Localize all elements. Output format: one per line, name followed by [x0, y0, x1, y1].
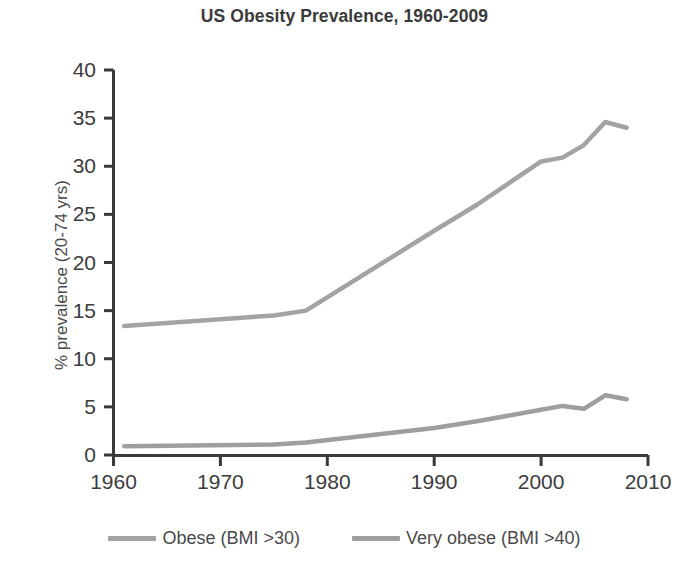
x-axis-tick-label: 1990 — [394, 471, 474, 492]
y-axis-tick-label: 25 — [42, 203, 96, 224]
y-axis-tick-label: 10 — [42, 348, 96, 369]
y-axis-tick-label: 5 — [42, 396, 96, 417]
y-axis-tick-label: 40 — [42, 59, 96, 80]
x-axis-tick-label: 2000 — [501, 471, 581, 492]
legend-swatch-icon — [108, 536, 156, 541]
legend-swatch-icon — [352, 536, 400, 541]
chart-page: US Obesity Prevalence, 1960-2009 % preva… — [0, 0, 689, 581]
data-series-group — [124, 122, 626, 446]
legend-label: Very obese (BMI >40) — [406, 528, 581, 549]
y-axis-tick-label: 20 — [42, 252, 96, 273]
plot-area — [0, 0, 689, 581]
chart-legend: Obese (BMI >30)Very obese (BMI >40) — [0, 528, 689, 549]
series-line-obese — [124, 122, 626, 326]
legend-entry[interactable]: Very obese (BMI >40) — [352, 528, 581, 549]
x-axis-tick-label: 1980 — [287, 471, 367, 492]
legend-label: Obese (BMI >30) — [162, 528, 300, 549]
y-axis-tick-label: 0 — [42, 444, 96, 465]
x-axis-tick-label: 1970 — [180, 471, 260, 492]
y-axis-tick-label: 35 — [42, 107, 96, 128]
legend-entry[interactable]: Obese (BMI >30) — [108, 528, 300, 549]
series-line-very-obese — [124, 395, 626, 446]
y-axis-tick-label: 30 — [42, 155, 96, 176]
x-axis-tick-label: 1960 — [74, 471, 154, 492]
x-axis-tick-label: 2010 — [608, 471, 688, 492]
y-axis-tick-label: 15 — [42, 300, 96, 321]
